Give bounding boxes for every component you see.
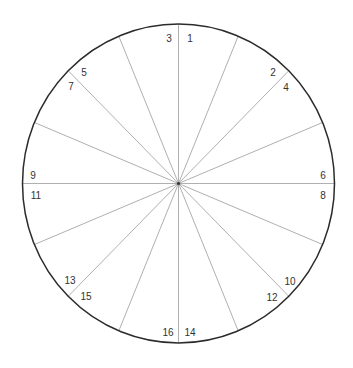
spoke-label: 11 xyxy=(31,191,41,201)
wheel-diagram xyxy=(0,0,353,368)
spoke-label: 7 xyxy=(68,82,74,92)
spoke-label: 13 xyxy=(64,276,75,286)
spoke-label: 3 xyxy=(166,34,172,44)
spoke-line xyxy=(34,122,178,183)
spoke-label: 15 xyxy=(80,292,91,302)
spoke-line xyxy=(68,184,178,297)
spoke-label: 14 xyxy=(184,328,195,338)
spoke-label: 9 xyxy=(30,171,36,181)
spoke-line xyxy=(179,184,289,297)
spoke-label: 4 xyxy=(283,83,289,93)
center-hub xyxy=(177,182,180,185)
spoke-line xyxy=(179,71,289,184)
spoke-label: 5 xyxy=(81,68,87,78)
spoke-label: 12 xyxy=(266,293,277,303)
spoke-line xyxy=(119,36,179,183)
spoke-line xyxy=(179,122,323,183)
spoke-label: 16 xyxy=(162,328,173,338)
spoke-line xyxy=(179,184,239,331)
spoke-label: 1 xyxy=(187,34,193,44)
spoke-label: 8 xyxy=(320,191,326,201)
spoke-line xyxy=(68,71,178,184)
spoke-label: 6 xyxy=(320,171,326,181)
spoke-line xyxy=(179,36,239,183)
spoke-label: 10 xyxy=(284,277,295,287)
spoke-line xyxy=(179,184,323,245)
spoke-label: 2 xyxy=(270,68,276,78)
spoke-line xyxy=(119,184,179,331)
spoke-line xyxy=(34,184,178,245)
